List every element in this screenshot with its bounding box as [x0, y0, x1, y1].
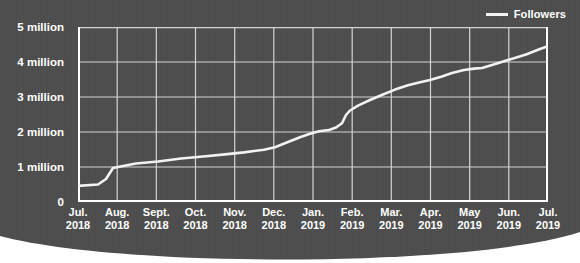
- x-tick-label-mar-2019: Mar. 2019: [379, 206, 403, 232]
- y-tick-label-0: 0: [58, 196, 64, 208]
- x-tick-label-oct-2018: Oct. 2018: [183, 206, 207, 232]
- x-tick-label-aug-2018: Aug. 2018: [105, 206, 129, 232]
- chart-screenshot: Followers 5 million 4 million 3 million …: [0, 0, 580, 263]
- x-tick-label-feb-2019: Feb. 2019: [340, 206, 364, 232]
- x-axis-labels: Jul. 2018 Aug. 2018 Sept. 2018 Oct. 2018…: [78, 206, 548, 246]
- y-tick-label-5m: 5 million: [17, 21, 64, 33]
- y-axis-labels: 5 million 4 million 3 million 2 million …: [0, 0, 72, 263]
- y-tick-label-3m: 3 million: [17, 91, 64, 103]
- y-tick-label-2m: 2 million: [17, 126, 64, 138]
- x-tick-label-sept-2018: Sept. 2018: [143, 206, 170, 232]
- x-tick-label-nov-2018: Nov. 2018: [222, 206, 246, 232]
- legend-label-followers: Followers: [514, 8, 566, 20]
- x-tick-label-jul-2018: Jul. 2018: [66, 206, 90, 232]
- y-tick-label-4m: 4 million: [17, 56, 64, 68]
- y-tick-label-1m: 1 million: [17, 161, 64, 173]
- x-tick-label-apr-2019: Apr. 2019: [418, 206, 442, 232]
- x-tick-label-jul-2019: Jul. 2019: [536, 206, 560, 232]
- x-tick-label-may-2019: May 2019: [457, 206, 481, 232]
- x-tick-label-jun-2019: Jun. 2019: [497, 206, 521, 232]
- vertical-gridlines: [117, 27, 509, 202]
- x-tick-label-dec-2018: Dec. 2018: [262, 206, 286, 232]
- x-tick-label-jan-2019: Jan. 2019: [301, 206, 325, 232]
- plot-area: [78, 27, 548, 202]
- line-swatch-icon: [486, 13, 508, 16]
- chart-legend: Followers: [486, 8, 566, 20]
